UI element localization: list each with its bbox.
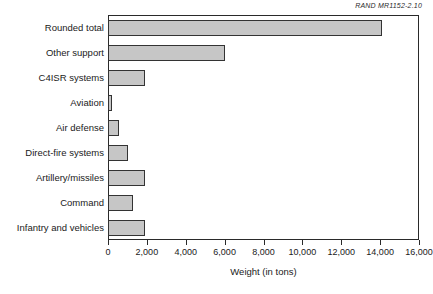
bar [108,195,133,211]
x-axis-tick [302,240,303,245]
bar [108,170,145,186]
x-axis-tick [186,240,187,245]
bar [108,120,119,136]
x-axis-tick-label: 0 [105,247,110,257]
category-label: C4ISR systems [0,72,104,83]
x-axis-tick [419,240,420,245]
bar [108,145,128,161]
source-credit-label: RAND MR1152-2.10 [355,2,422,9]
bar [108,70,145,86]
x-axis-title: Weight (in tons) [108,266,419,277]
x-axis-tick-labels: 02,0004,0006,0008,00010,00012,00014,0001… [0,247,433,261]
category-label: Artillery/missiles [0,172,104,183]
bar [108,95,112,111]
x-axis-tick [147,240,148,245]
x-axis-tick-label: 16,000 [405,247,433,257]
x-axis-tick [225,240,226,245]
x-axis-tick [108,240,109,245]
x-axis-tick-label: 10,000 [289,247,317,257]
bar [108,220,145,236]
x-axis-tick-label: 4,000 [174,247,197,257]
x-axis-tick-label: 2,000 [136,247,159,257]
x-axis-tick-label: 12,000 [327,247,355,257]
x-axis-ticks [108,240,419,246]
bars-layer [108,15,419,240]
category-label: Infantry and vehicles [0,222,104,233]
bar-chart-figure: RAND MR1152-2.10 Rounded totalOther supp… [0,0,433,294]
x-axis-tick-label: 14,000 [366,247,394,257]
bar [108,20,382,36]
category-label: Command [0,197,104,208]
x-axis-tick [264,240,265,245]
category-label: Air defense [0,122,104,133]
category-label: Other support [0,47,104,58]
category-label: Rounded total [0,22,104,33]
category-label: Aviation [0,97,104,108]
x-axis-tick-label: 8,000 [252,247,275,257]
x-axis-tick [341,240,342,245]
x-axis-tick [380,240,381,245]
category-axis: Rounded totalOther supportC4ISR systemsA… [0,15,104,240]
x-axis-tick-label: 6,000 [213,247,236,257]
bar [108,45,225,61]
category-label: Direct-fire systems [0,147,104,158]
